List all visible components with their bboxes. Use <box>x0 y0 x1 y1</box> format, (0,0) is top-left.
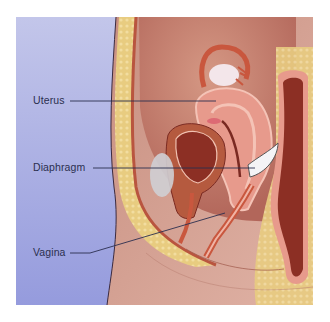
pubic-bone <box>150 153 174 197</box>
label-diaphragm: Diaphragm <box>33 161 85 173</box>
uterus-highlight <box>207 118 221 124</box>
label-vagina: Vagina <box>33 246 66 258</box>
label-uterus: Uterus <box>33 94 65 106</box>
ovary <box>209 64 239 86</box>
